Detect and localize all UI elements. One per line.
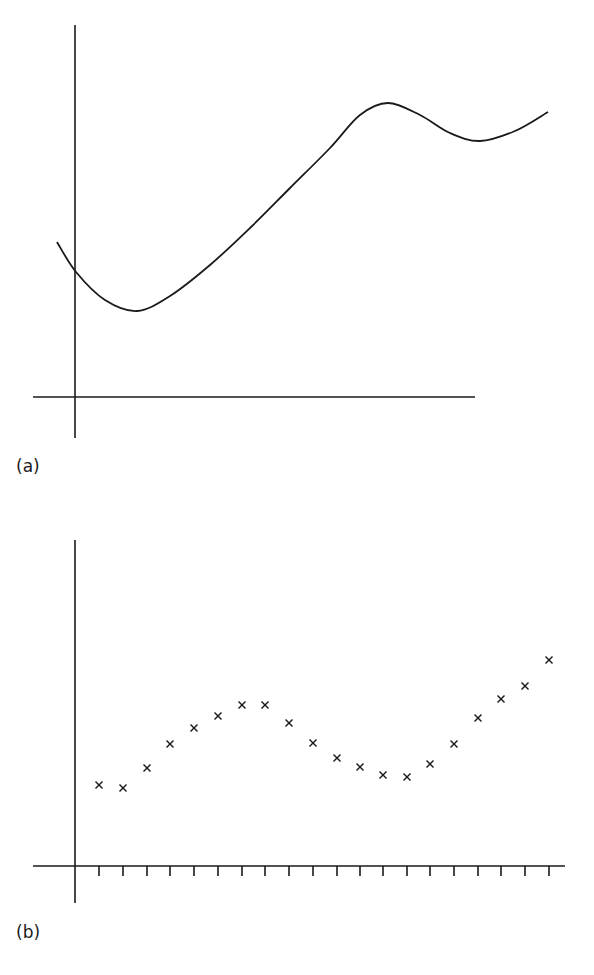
data-point-x-marker: [262, 702, 269, 709]
data-point-x-marker: [144, 765, 151, 772]
data-point-x-marker: [546, 657, 553, 664]
data-point-x-marker: [310, 740, 317, 747]
panel-b-data-points: [96, 657, 553, 792]
panel-a-label: (a): [16, 456, 40, 476]
data-point-x-marker: [215, 713, 222, 720]
data-point-x-marker: [239, 702, 246, 709]
data-point-x-marker: [120, 785, 127, 792]
data-point-x-marker: [404, 774, 411, 781]
data-point-x-marker: [286, 720, 293, 727]
data-point-x-marker: [357, 764, 364, 771]
data-point-x-marker: [475, 715, 482, 722]
panel-a-chart: [33, 25, 548, 438]
data-point-x-marker: [451, 741, 458, 748]
panel-b-chart: [33, 540, 565, 903]
panel-a-curve: [57, 103, 548, 311]
data-point-x-marker: [96, 782, 103, 789]
data-point-x-marker: [380, 772, 387, 779]
data-point-x-marker: [334, 755, 341, 762]
data-point-x-marker: [191, 725, 198, 732]
data-point-x-marker: [427, 761, 434, 768]
data-point-x-marker: [167, 741, 174, 748]
data-point-x-marker: [498, 696, 505, 703]
panel-b-label: (b): [16, 922, 40, 942]
panel-b-x-ticks: [99, 866, 549, 876]
data-point-x-marker: [522, 683, 529, 690]
figure-canvas: [0, 0, 594, 975]
